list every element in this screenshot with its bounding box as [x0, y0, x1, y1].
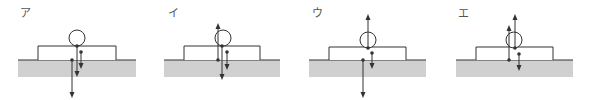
panel-label-u: ウ [312, 4, 323, 20]
force-origin-dot [361, 58, 365, 62]
panel-3 [309, 17, 426, 95]
force-origin-dot [220, 44, 224, 48]
panel-1 [18, 30, 136, 95]
force-origin-dot [513, 46, 517, 50]
force-origin-dot [75, 44, 79, 48]
ball [215, 30, 231, 46]
force-diagram-set: ア イ ウ エ [0, 0, 589, 100]
force-origin-dot [370, 51, 374, 55]
force-origin-dot [507, 58, 511, 62]
panel-4 [456, 17, 573, 77]
force-origin-dot [225, 50, 229, 54]
force-origin-dot [216, 58, 220, 62]
panel-label-e: エ [458, 4, 469, 20]
panel-label-i: イ [168, 4, 179, 20]
force-origin-dot [366, 46, 370, 50]
ball [506, 32, 522, 48]
force-origin-dot [70, 58, 74, 62]
panel-2 [164, 26, 280, 77]
panel-label-a: ア [20, 4, 31, 20]
ball [69, 30, 85, 46]
force-origin-dot [517, 52, 521, 56]
ground [456, 60, 573, 77]
force-origin-dot [79, 50, 83, 54]
diagram-canvas [0, 0, 589, 100]
ground [309, 60, 426, 77]
